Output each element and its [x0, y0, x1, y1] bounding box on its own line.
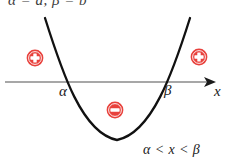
plus-left-icon: [27, 50, 44, 67]
minus-middle-icon: [107, 102, 124, 119]
sign-badges-layer: [0, 0, 236, 164]
x-axis-label: x: [214, 84, 221, 99]
root-label-beta: β: [164, 83, 171, 98]
quadratic-inequality-figure: α = a, β = b α β x α < x < β: [0, 0, 236, 164]
plus-right-icon: [191, 49, 208, 66]
root-label-alpha: α: [59, 84, 67, 99]
inequality-caption: α < x < β: [143, 143, 200, 157]
